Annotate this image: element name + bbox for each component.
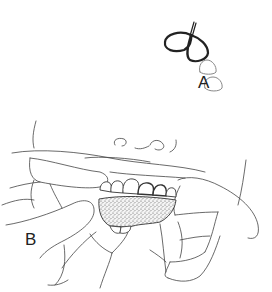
panel-label-a: A (198, 74, 209, 91)
dental-illustration: A B (0, 0, 272, 292)
panel-a-drawing (165, 22, 222, 91)
upper-teeth (100, 179, 176, 197)
panel-label-b: B (25, 231, 36, 248)
lower-teeth (110, 226, 131, 233)
gauze-pad (99, 196, 176, 226)
illustration-drawing (0, 0, 272, 292)
